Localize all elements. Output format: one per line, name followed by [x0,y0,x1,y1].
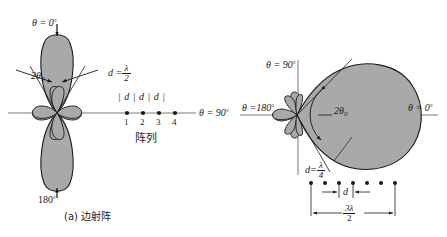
left-beamwidth-label: 2θ0 [31,71,44,83]
right-d-marker-label: d [343,187,348,197]
array-element-dot [173,111,177,115]
right-theta-left-label: θ =180° [242,103,274,113]
left-element-number: 1 [124,118,129,127]
left-element-number: 3 [156,118,161,127]
array-element-dot [379,181,383,185]
array-element-dot [141,111,145,115]
array-element-dot [323,181,327,185]
right-total-length-label: 3λ2 [343,204,355,223]
left-spacing-label: d =λ2 [108,64,131,83]
left-theta-right-label: θ = 90° [199,108,228,118]
left-element-ticks: | d | d | d | [118,92,166,102]
array-element-dot [157,111,161,115]
left-element-number: 4 [172,118,177,127]
right-beamwidth-label: 2θ0 [334,106,347,118]
antenna-pattern-figure [0,0,447,237]
array-element-dot [125,111,129,115]
right-spacing-label: d=λ4 [305,161,325,180]
left-element-number: 2 [140,118,145,127]
figure-caption-a: (a) 边射阵 [64,212,111,222]
left-polar-plot [8,24,196,198]
left-theta-bottom-label: 180° [38,195,56,205]
right-main-lobe [297,64,421,170]
right-theta-right-label: θ = 0° [408,103,432,113]
array-element-dot [365,181,369,185]
right-theta-top-label: θ = 90° [266,60,295,70]
left-theta-top-label: θ = 0° [32,18,56,28]
left-array-title: 阵列 [135,133,157,144]
